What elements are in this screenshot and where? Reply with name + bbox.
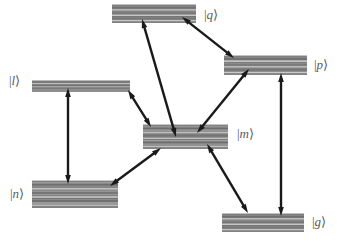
level-label-l: |l⟩ <box>9 74 20 87</box>
level-label-n: |n⟩ <box>10 187 24 200</box>
transition-arrow-p-g <box>278 73 284 216</box>
transition-arrow-l-m <box>128 90 151 127</box>
transition-arrow-m-g <box>207 144 248 213</box>
energy-level-g <box>222 213 304 232</box>
energy-level-diagram: |q⟩|p⟩|l⟩|m⟩|n⟩|g⟩ <box>0 0 338 241</box>
energy-level-l <box>32 80 130 92</box>
energy-level-q <box>112 4 196 23</box>
level-label-m: |m⟩ <box>237 127 254 140</box>
diagram-canvas <box>0 0 338 241</box>
transition-arrow-m-p <box>197 69 249 133</box>
level-label-p: |p⟩ <box>314 58 328 71</box>
transition-arrow-n-m <box>110 148 161 186</box>
energy-level-m <box>143 124 228 149</box>
energy-level-p <box>224 55 307 75</box>
level-label-q: |q⟩ <box>204 8 218 21</box>
level-label-g: |g⟩ <box>312 215 326 228</box>
energy-level-n <box>32 180 118 208</box>
transition-arrow-q-p <box>182 17 234 58</box>
transition-arrow-l-n <box>65 88 71 184</box>
